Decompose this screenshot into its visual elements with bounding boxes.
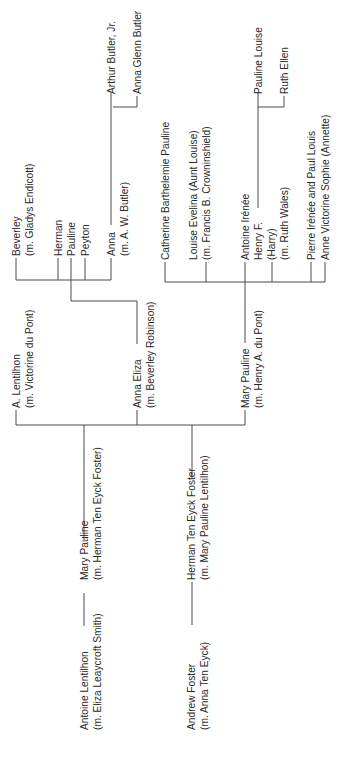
person-anna-glenn-butler: Anna Glenn Butler (132, 10, 143, 94)
person-pauline-robinson: Pauline (66, 222, 77, 256)
person-antoine-irenee: Antoine Irénée (240, 193, 251, 260)
spouse-ruth-wales: (m. Ruth Wales) (279, 187, 290, 260)
person-beverley: Beverley (11, 215, 22, 256)
person-a-lentilhon: A. Lentilhon (11, 354, 22, 408)
spouse-mary-pauline-lentilhon: (m. Mary Pauline Lentilhon) (199, 455, 210, 580)
person-herman-ten-eyck-foster: Herman Ten Eyck Foster (186, 467, 197, 580)
person-anne-victorine-sophie: Anne Victorine Sophie (Annette) (320, 115, 331, 260)
person-peyton: Peyton (80, 224, 91, 256)
family-tree-diagram: Antoine Lentilhon (m. Eliza Leaycroft Sm… (0, 0, 346, 758)
person-antoine-lentilhon: Antoine Lentilhon (79, 651, 90, 730)
person-pauline-louise: Pauline Louise (253, 27, 264, 94)
spouse-beverley-robinson: (m. Beverley Robinson) (145, 302, 156, 408)
spouse-herman-ten-eyck-foster: (m. Herman Ten Eyck Foster) (92, 447, 103, 580)
person-andrew-foster: Andrew Foster (186, 663, 197, 730)
person-louise-evelina: Louise Evelina (Aunt Louise) (188, 130, 199, 260)
spouse-francis-b-crowninshield: (m. Francis B. Crowninshield) (201, 126, 212, 260)
person-anna-eliza: Anna Eliza (132, 359, 143, 408)
nickname-harry: (Harry) (266, 228, 277, 260)
person-henry-f: Henry F. (253, 222, 264, 260)
person-mary-pauline-du-pont: Mary Pauline (240, 348, 251, 408)
person-herman-robinson: Herman (53, 220, 64, 256)
spouse-gladys-endicott: (m. Gladys Endicott) (24, 164, 35, 256)
person-arthur-butler-jr: Arthur Butler, Jr. (106, 21, 117, 94)
spouse-a-w-butler: (m. A. W. Butler) (119, 182, 130, 256)
spouse-anna-ten-eyck: (m. Anna Ten Eyck) (199, 642, 210, 730)
spouse-eliza-leaycroft-smith: (m. Eliza Leaycroft Smith) (92, 613, 103, 730)
person-ruth-ellen: Ruth Ellen (279, 47, 290, 94)
person-mary-pauline-lentilhon: Mary Pauline (79, 520, 90, 580)
person-pierre-irenee-and-paul-louis: Pierre Irénée and Paul Louis (306, 131, 317, 260)
person-catherine-barthelemie-pauline: Catherine Barthelemie Pauline (160, 121, 171, 260)
person-anna-butler: Anna (106, 232, 117, 256)
spouse-victorine-du-pont: (m. Victorine du Pont) (24, 310, 35, 408)
spouse-henry-a-du-pont: (m. Henry A. du Pont) (253, 310, 264, 408)
